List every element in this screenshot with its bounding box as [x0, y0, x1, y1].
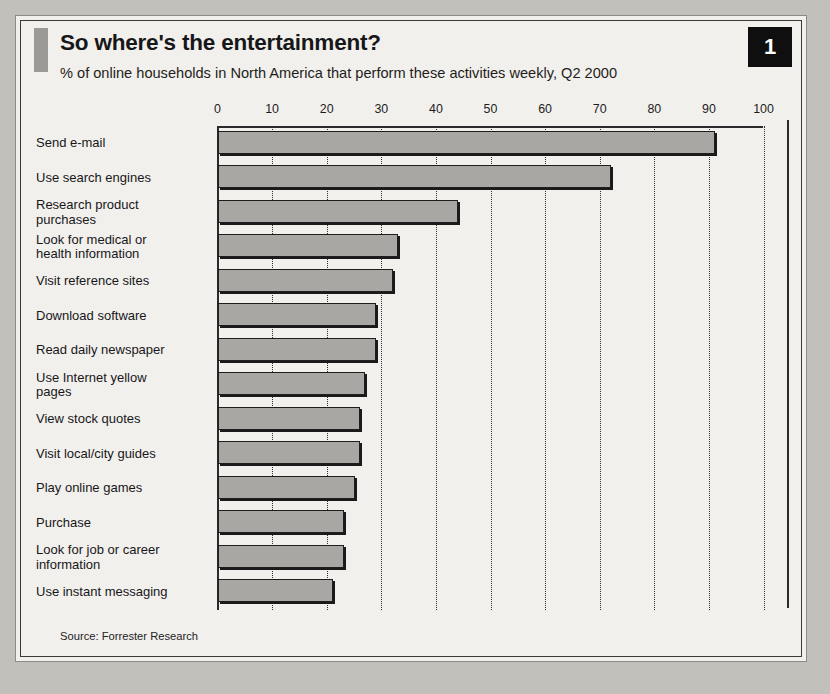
category-label: Use Internet yellow pages [36, 370, 208, 399]
source-note: Source: Forrester Research [60, 630, 198, 642]
category-label: Visit local/city guides [36, 447, 208, 461]
bar [218, 372, 365, 395]
title-accent-bar [34, 28, 48, 72]
page-number-badge: 1 [748, 27, 792, 67]
chart-title: So where's the entertainment? [60, 30, 381, 56]
bar-row: Look for job or career information [16, 540, 806, 575]
bar [218, 303, 376, 326]
bar-row: Look for medical or health information [16, 230, 806, 265]
x-tick-label: 20 [320, 102, 334, 116]
bar-rows: Send e-mailUse search enginesResearch pr… [16, 126, 806, 609]
category-label: Use search engines [36, 171, 208, 185]
category-label: Research product purchases [36, 198, 208, 227]
category-label: Download software [36, 309, 208, 323]
bar-row: Research product purchases [16, 195, 806, 230]
chart-figure: So where's the entertainment? % of onlin… [16, 16, 806, 661]
chart-subtitle: % of online households in North America … [60, 65, 617, 81]
bar [218, 510, 344, 533]
screenshot-root: So where's the entertainment? % of onlin… [0, 0, 830, 694]
bar-row: Send e-mail [16, 126, 806, 161]
bar-row: Read daily newspaper [16, 333, 806, 368]
bar-row: Play online games [16, 471, 806, 506]
x-axis-tick-labels: 0102030405060708090100 [16, 102, 806, 122]
bar [218, 269, 393, 292]
bar [218, 165, 611, 188]
bar-row: Use Internet yellow pages [16, 368, 806, 403]
bar-row: Purchase [16, 506, 806, 541]
x-tick-label: 100 [753, 102, 774, 116]
category-label: Send e-mail [36, 136, 208, 150]
bar [218, 476, 355, 499]
x-tick-label: 50 [484, 102, 498, 116]
bar [218, 441, 360, 464]
bar-row: View stock quotes [16, 402, 806, 437]
bar [218, 579, 333, 602]
category-label: Look for medical or health information [36, 232, 208, 261]
x-tick-label: 10 [265, 102, 279, 116]
bar [218, 338, 376, 361]
bar-row: Download software [16, 299, 806, 334]
category-label: Look for job or career information [36, 543, 208, 572]
category-label: Read daily newspaper [36, 343, 208, 357]
bar [218, 545, 344, 568]
bar-row: Visit reference sites [16, 264, 806, 299]
x-tick-label: 90 [702, 102, 716, 116]
bar-row: Use search engines [16, 161, 806, 196]
plot-area: 0102030405060708090100 Send e-mailUse se… [16, 102, 806, 612]
x-tick-label: 0 [214, 102, 221, 116]
category-label: Purchase [36, 516, 208, 530]
category-label: View stock quotes [36, 412, 208, 426]
x-tick-label: 40 [429, 102, 443, 116]
x-tick-label: 60 [538, 102, 552, 116]
bar [218, 131, 715, 154]
bar-row: Visit local/city guides [16, 437, 806, 472]
category-label: Play online games [36, 481, 208, 495]
bar [218, 234, 398, 257]
category-label: Visit reference sites [36, 274, 208, 288]
bar [218, 407, 360, 430]
x-tick-label: 30 [374, 102, 388, 116]
x-tick-label: 70 [593, 102, 607, 116]
x-tick-label: 80 [647, 102, 661, 116]
bar [218, 200, 458, 223]
category-label: Use instant messaging [36, 585, 208, 599]
bar-row: Use instant messaging [16, 575, 806, 610]
